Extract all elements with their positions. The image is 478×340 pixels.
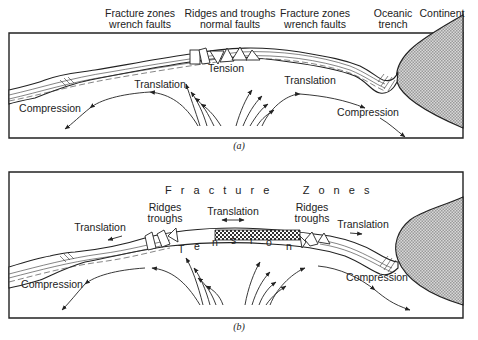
convection-arrows-b [62,258,410,310]
svg-text:n: n [286,240,292,252]
spreading-zone-b [215,230,300,240]
label-troughs-left-b: troughs [147,212,182,224]
label-translation-left-a: Translation [134,78,186,90]
label-translation-center-b: Translation [207,205,259,217]
svg-text:e: e [194,240,200,252]
svg-text:o: o [266,236,272,248]
label-continent: Continent [420,7,465,19]
label-compression-right-a: Compression [337,106,399,118]
label-compression-left-b: Compression [21,278,83,290]
svg-text:s: s [231,234,236,246]
label-fracture-zones-b: F r a c t u r e Z o n e s [165,184,372,196]
panel-a: Fracture zones wrench faults Ridges and … [9,7,465,152]
caption-b: (b) [233,321,245,333]
label-normal-faults: normal faults [200,18,260,30]
label-wrench-faults-left: wrench faults [108,18,171,30]
svg-text:i: i [250,234,252,246]
label-translation-left-b: Translation [74,221,126,233]
label-translation-right-a: Translation [284,74,336,86]
panel-a-top-labels: Fracture zones wrench faults Ridges and … [105,7,465,30]
svg-text:T: T [178,243,185,255]
tectonics-diagram: Fracture zones wrench faults Ridges and … [0,0,478,340]
label-translation-right-b: Translation [337,218,389,230]
label-wrench-faults-right: wrench faults [283,18,346,30]
label-tension-a: Tension [208,62,244,74]
ridges-troughs-left-b [145,228,178,250]
label-troughs-right-b: troughs [294,212,329,224]
panel-b: F r a c t u r e Z o n e s [9,172,463,333]
label-trench: trench [378,18,407,30]
label-compression-left-a: Compression [19,102,81,114]
svg-text:n: n [212,236,218,248]
caption-a: (a) [233,140,245,152]
continent-b [396,197,463,305]
continent-a [396,15,463,128]
